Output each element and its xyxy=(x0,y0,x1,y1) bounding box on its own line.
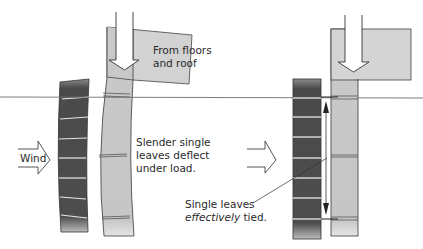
right-outer-leaf xyxy=(293,79,321,239)
deflect-label-line3: under load. xyxy=(136,162,211,175)
load-label-line1: From floors xyxy=(153,44,212,57)
tied-label-line1: Single leaves xyxy=(185,198,267,211)
deflect-label-line1: Slender single xyxy=(136,136,211,149)
right-tied-wall xyxy=(247,15,411,239)
deflect-label-line2: leaves deflect xyxy=(136,149,211,162)
deflect-label: Slender single leaves deflect under load… xyxy=(136,136,211,175)
tied-label-line2: effectively tied. xyxy=(185,211,267,224)
left-outer-leaf xyxy=(58,79,89,232)
tied-label-rest: tied. xyxy=(240,211,267,223)
tied-label: Single leaves effectively tied. xyxy=(185,198,267,224)
load-label-line2: and roof xyxy=(153,57,212,70)
wind-label: Wind xyxy=(20,152,46,165)
cavity-double-arrow xyxy=(323,101,329,215)
right-wind-arrow-icon xyxy=(247,141,276,173)
tied-label-emphasis: effectively xyxy=(185,211,240,223)
load-label: From floors and roof xyxy=(153,44,212,70)
